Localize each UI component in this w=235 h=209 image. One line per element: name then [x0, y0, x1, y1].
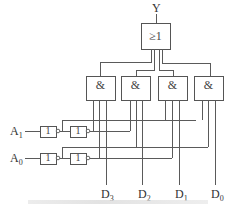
d3-name: D: [101, 187, 110, 201]
not-a1-second-bubble: [86, 129, 90, 133]
not-a0-first-symbol: 1: [40, 152, 56, 164]
and0-to-or-wire: [162, 49, 210, 76]
or-gate-symbol: ≥1: [141, 30, 170, 42]
and-gate-1-symbol: &: [158, 79, 187, 91]
and3-to-or-wire: [100, 49, 151, 76]
data-input-d0-label: D0: [211, 188, 224, 205]
and-gate-2-symbol: &: [121, 79, 150, 91]
d1-name: D: [175, 187, 184, 201]
a0-name: A: [10, 151, 19, 165]
d0-name: D: [211, 187, 220, 201]
not-a1-first-bubble: [56, 129, 60, 133]
select-input-a0-label: A0: [10, 152, 23, 169]
not-a1-first-symbol: 1: [40, 125, 56, 137]
a1-name: A: [10, 124, 19, 138]
a0-sub: 0: [19, 158, 23, 167]
and-gate-0-symbol: &: [194, 79, 223, 91]
d2-name: D: [138, 187, 147, 201]
a1-sub: 1: [19, 131, 23, 140]
mux-circuit-diagram: [0, 0, 235, 209]
d0-sub: 0: [220, 194, 224, 203]
not-a0-second-bubble: [86, 156, 90, 160]
figure-caption-faint: [28, 200, 208, 204]
not-a1-second-symbol: 1: [70, 125, 86, 137]
output-label: Y: [152, 2, 161, 14]
select-input-a1-label: A1: [10, 125, 23, 142]
and-gate-3-symbol: &: [86, 79, 115, 91]
not-a0-first-bubble: [56, 156, 60, 160]
not-a0-second-symbol: 1: [70, 152, 86, 164]
